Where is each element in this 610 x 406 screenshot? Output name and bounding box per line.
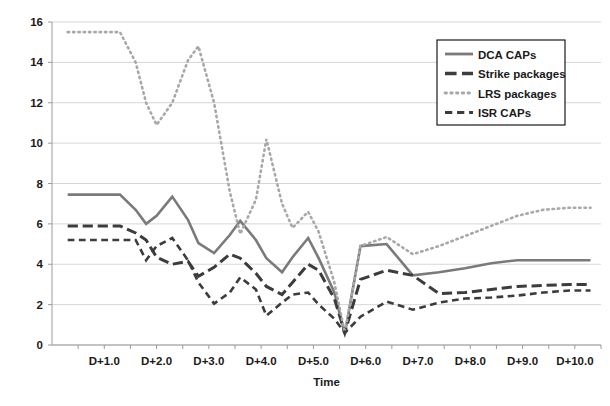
line-chart: 0246810121416 D+1.0D+2.0D+3.0D+4.0D+5.0D… — [0, 0, 610, 406]
x-tick-label-D-4-0: D+4.0 — [246, 355, 277, 367]
x-tick-label-D-10-0: D+10.0 — [556, 355, 593, 367]
y-tick-label-8: 8 — [37, 178, 44, 190]
legend-label-dca-caps: DCA CAPs — [478, 49, 536, 61]
chart-canvas: 0246810121416 D+1.0D+2.0D+3.0D+4.0D+5.0D… — [0, 0, 610, 406]
x-tick-label-D-5-0: D+5.0 — [298, 355, 329, 367]
legend-label-lrs-packages: LRS packages — [478, 88, 557, 100]
y-tick-label-14: 14 — [30, 56, 43, 68]
y-tick-label-0: 0 — [37, 339, 43, 351]
legend-label-strike-packages: Strike packages — [478, 68, 566, 80]
y-axis-tick-labels: 0246810121416 — [30, 16, 43, 351]
legend-label-isr-caps: ISR CAPs — [478, 107, 531, 119]
x-tick-label-D-6-0: D+6.0 — [350, 355, 381, 367]
y-tick-label-6: 6 — [37, 218, 43, 230]
series-line-isr-caps — [68, 238, 591, 333]
y-tick-label-4: 4 — [37, 258, 44, 270]
x-axis-title: Time — [313, 376, 340, 388]
x-tick-label-D-2-0: D+2.0 — [141, 355, 172, 367]
x-axis-title-text: Time — [313, 376, 340, 388]
x-tick-label-D-1-0: D+1.0 — [89, 355, 120, 367]
x-tick-label-D-8-0: D+8.0 — [455, 355, 486, 367]
y-tick-label-12: 12 — [30, 97, 43, 109]
legend: DCA CAPsStrike packagesLRS packagesISR C… — [437, 40, 566, 125]
y-tick-label-2: 2 — [37, 299, 43, 311]
y-tick-label-10: 10 — [30, 137, 43, 149]
x-tick-label-D-7-0: D+7.0 — [402, 355, 433, 367]
y-tick-label-16: 16 — [30, 16, 43, 28]
x-tick-label-D-3-0: D+3.0 — [193, 355, 224, 367]
x-tick-label-D-9-0: D+9.0 — [507, 355, 538, 367]
x-axis-tick-labels: D+1.0D+2.0D+3.0D+4.0D+5.0D+6.0D+7.0D+8.0… — [89, 355, 594, 367]
